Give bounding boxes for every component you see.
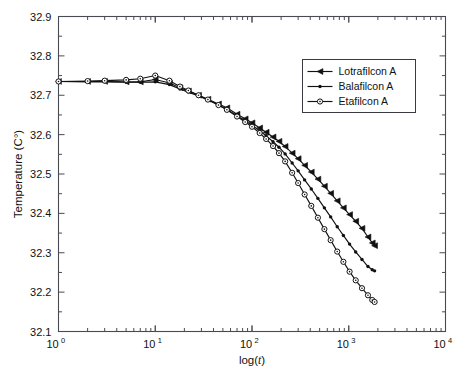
data-marker-center bbox=[179, 86, 181, 88]
x-tick-label: 100 bbox=[46, 336, 65, 350]
data-marker-center bbox=[198, 94, 200, 96]
data-marker-center bbox=[304, 194, 306, 196]
data-marker-center bbox=[367, 294, 369, 296]
data-marker-center bbox=[284, 161, 286, 163]
data-marker bbox=[296, 169, 299, 172]
data-marker bbox=[342, 234, 345, 237]
data-marker-center bbox=[104, 80, 106, 82]
chart-legend: Lotrafilcon ABalafilcon AEtafilcon A bbox=[303, 60, 416, 113]
data-marker bbox=[323, 206, 326, 209]
data-marker-center bbox=[265, 138, 267, 140]
svg-text:10: 10 bbox=[143, 338, 155, 350]
data-marker bbox=[283, 152, 286, 155]
y-tick-label: 32.5 bbox=[30, 168, 51, 180]
data-marker bbox=[271, 140, 274, 143]
data-marker-center bbox=[330, 239, 332, 241]
data-marker bbox=[154, 80, 157, 83]
x-axis-tick-labels: 100101102103104 bbox=[46, 336, 452, 350]
data-marker-center bbox=[87, 80, 89, 82]
y-axis-tick-labels: 32.132.232.332.432.532.632.732.832.9 bbox=[30, 11, 51, 338]
data-marker bbox=[354, 250, 357, 253]
y-tick-label: 32.6 bbox=[30, 129, 51, 141]
data-marker-center bbox=[278, 152, 280, 154]
data-marker-center bbox=[139, 78, 141, 80]
svg-text:10: 10 bbox=[46, 338, 58, 350]
data-marker-center bbox=[317, 217, 319, 219]
x-axis-title: log(t) bbox=[239, 354, 265, 366]
data-marker-center bbox=[226, 109, 228, 111]
data-marker-center bbox=[244, 121, 246, 123]
temperature-vs-log-time-chart: 100101102103104 32.132.232.332.432.532.6… bbox=[0, 0, 470, 377]
data-marker bbox=[316, 197, 319, 200]
svg-text:10: 10 bbox=[433, 338, 445, 350]
data-marker bbox=[290, 161, 293, 164]
legend-label: Etafilcon A bbox=[339, 95, 389, 107]
data-marker-center bbox=[319, 101, 321, 103]
data-marker-center bbox=[272, 145, 274, 147]
data-marker-center bbox=[125, 79, 127, 81]
data-marker-center bbox=[218, 104, 220, 106]
svg-text:10: 10 bbox=[337, 338, 349, 350]
y-tick-label: 32.1 bbox=[30, 326, 51, 338]
data-marker-center bbox=[310, 205, 312, 207]
y-tick-label: 32.4 bbox=[30, 207, 51, 219]
data-marker-center bbox=[349, 271, 351, 273]
chart-figure: 100101102103104 32.132.232.332.432.532.6… bbox=[0, 0, 470, 377]
y-tick-label: 32.3 bbox=[30, 247, 51, 259]
data-marker-center bbox=[154, 75, 156, 77]
svg-text:1: 1 bbox=[158, 336, 162, 345]
y-tick-label: 32.9 bbox=[30, 11, 51, 23]
data-marker bbox=[360, 258, 363, 261]
legend-label: Lotrafilcon A bbox=[339, 65, 397, 77]
data-marker bbox=[348, 242, 351, 245]
data-marker-center bbox=[58, 81, 60, 83]
data-marker-center bbox=[259, 132, 261, 134]
data-marker-center bbox=[343, 261, 345, 263]
data-marker-center bbox=[336, 251, 338, 253]
data-marker bbox=[366, 265, 369, 268]
x-tick-label: 103 bbox=[337, 336, 356, 350]
data-marker-center bbox=[291, 172, 293, 174]
data-marker-center bbox=[236, 116, 238, 118]
data-marker bbox=[373, 269, 376, 272]
svg-text:4: 4 bbox=[448, 336, 452, 345]
y-tick-label: 32.7 bbox=[30, 89, 51, 101]
data-marker-center bbox=[251, 126, 253, 128]
data-marker-center bbox=[324, 228, 326, 230]
x-tick-label: 104 bbox=[433, 336, 452, 350]
data-marker-center bbox=[207, 99, 209, 101]
x-tick-label: 102 bbox=[240, 336, 259, 350]
data-marker bbox=[318, 85, 321, 88]
data-marker bbox=[303, 178, 306, 181]
data-marker-center bbox=[361, 287, 363, 289]
data-marker-center bbox=[169, 80, 171, 82]
data-marker bbox=[277, 146, 280, 149]
svg-text:2: 2 bbox=[254, 336, 258, 345]
data-marker bbox=[310, 187, 313, 190]
y-tick-label: 32.8 bbox=[30, 50, 51, 62]
data-marker-center bbox=[355, 280, 357, 282]
data-marker-center bbox=[297, 182, 299, 184]
svg-text:3: 3 bbox=[351, 336, 355, 345]
svg-text:10: 10 bbox=[240, 338, 252, 350]
y-axis-title: Temperature (C°) bbox=[12, 130, 24, 218]
x-tick-label: 101 bbox=[143, 336, 162, 350]
y-tick-label: 32.2 bbox=[30, 286, 51, 298]
data-marker-center bbox=[188, 90, 190, 92]
data-marker bbox=[329, 215, 332, 218]
data-marker-center bbox=[374, 301, 376, 303]
svg-text:0: 0 bbox=[61, 336, 65, 345]
legend-label: Balafilcon A bbox=[339, 80, 394, 92]
data-marker bbox=[336, 225, 339, 228]
